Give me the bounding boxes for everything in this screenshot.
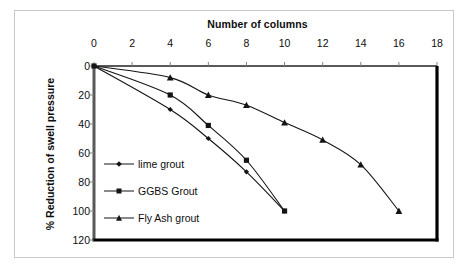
legend-label: GGBS Grout <box>138 185 198 197</box>
legend-marker-diamond-icon <box>104 158 134 170</box>
legend-marker <box>116 161 122 167</box>
data-point-marker <box>91 63 96 68</box>
chart-legend: lime groutGGBS GroutFly Ash grout <box>104 150 236 231</box>
data-point-marker <box>168 92 173 97</box>
data-point-marker <box>244 158 249 163</box>
legend-item[interactable]: lime grout <box>104 150 236 177</box>
data-point-marker <box>206 123 211 128</box>
legend-item[interactable]: GGBS Grout <box>104 177 236 204</box>
data-point-marker <box>282 208 287 213</box>
legend-marker-triangle-icon <box>104 212 134 224</box>
legend-marker-square-icon <box>104 185 134 197</box>
legend-item[interactable]: Fly Ash grout <box>104 204 236 231</box>
legend-marker <box>117 188 122 193</box>
legend-marker <box>116 214 122 220</box>
legend-label: lime grout <box>138 158 184 170</box>
chart-page: Number of columns 024681012141618 020406… <box>0 0 469 270</box>
legend-label: Fly Ash grout <box>138 212 199 224</box>
